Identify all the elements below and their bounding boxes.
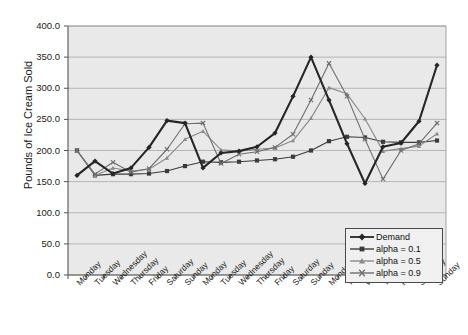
data-point: [255, 158, 259, 162]
legend-label-alpha-09: alpha = 0.9: [375, 268, 421, 278]
chart-legend: Demand alpha = 0.1 alpha = 0.5 alpha = 0…: [345, 228, 443, 283]
legend-item: alpha = 0.5: [349, 255, 439, 267]
data-point: [381, 140, 385, 144]
data-point: [327, 139, 331, 143]
legend-symbol-alpha-09: [349, 267, 375, 279]
data-point: [147, 171, 151, 175]
legend-symbol-alpha-05: [349, 255, 375, 267]
legend-item: Demand: [349, 231, 439, 243]
legend-label-demand: Demand: [375, 232, 410, 242]
data-point: [291, 155, 295, 159]
data-point: [183, 164, 187, 168]
data-point: [435, 138, 439, 142]
legend-item: alpha = 0.1: [349, 243, 439, 255]
data-point: [273, 157, 277, 161]
data-point: [165, 169, 169, 173]
legend-label-alpha-05: alpha = 0.5: [375, 256, 421, 266]
data-point: [237, 160, 241, 164]
legend-symbol-alpha-01: [349, 243, 375, 255]
ice-cream-demand-chart: Pounds of Ice Cream Sold 400.0350.0300.0…: [0, 0, 468, 335]
legend-label-alpha-01: alpha = 0.1: [375, 244, 421, 254]
legend-item: alpha = 0.9: [349, 267, 439, 279]
plot-canvas: [0, 0, 468, 335]
legend-symbol-demand: [349, 231, 375, 243]
data-point: [309, 148, 313, 152]
